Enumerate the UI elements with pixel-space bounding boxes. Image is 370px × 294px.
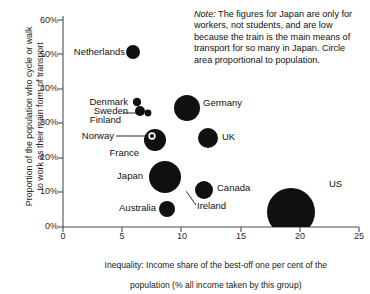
bubble-label-us: US [329, 178, 342, 189]
x-axis-ticks [63, 227, 359, 232]
bubble-france[interactable] [144, 129, 166, 151]
bubble-us[interactable] [267, 188, 315, 236]
bubble-label-norway: Norway [55, 130, 114, 141]
bubble-netherlands[interactable] [126, 45, 140, 59]
bubble-label-finland: Finland [64, 114, 121, 125]
bubble-label-france: France [76, 147, 139, 158]
bubble-label-australia: Australia [92, 202, 156, 213]
bubble-australia[interactable] [159, 201, 175, 217]
bubble-label-uk: UK [222, 131, 235, 142]
bubble-label-japan: Japan [89, 170, 143, 181]
bubble-germany[interactable] [174, 95, 200, 121]
bubble-denmark[interactable] [133, 98, 141, 106]
bubble-label-ireland: Ireland [197, 200, 226, 211]
bubble-label-netherlands: Netherlands [63, 46, 125, 57]
bubble-uk[interactable] [198, 128, 218, 148]
bubble-ireland[interactable] [180, 186, 186, 192]
bubble-finland[interactable] [145, 110, 152, 117]
bubble-sweden[interactable] [135, 106, 145, 116]
x-axis-title-line2: population (% all income taken by this g… [130, 280, 302, 290]
bubble-canada[interactable] [195, 181, 213, 199]
bubble-japan[interactable] [149, 161, 181, 193]
bubble-label-germany: Germany [203, 97, 242, 108]
bubble-label-canada: Canada [217, 182, 250, 193]
leader-line-ireland [186, 191, 196, 205]
